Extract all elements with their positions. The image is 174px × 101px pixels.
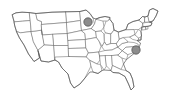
state-washington: [13, 12, 31, 22]
marker-mid-atlantic[interactable]: [132, 46, 140, 54]
marker-upper-midwest[interactable]: [84, 18, 92, 26]
state-oklahoma: [69, 48, 89, 57]
state-texas: [55, 57, 91, 89]
state-kansas: [68, 40, 86, 49]
state-florida: [111, 66, 134, 91]
state-wyoming: [42, 23, 68, 36]
state-oregon: [15, 21, 32, 33]
us-map-figure: [0, 0, 174, 101]
united-states-map: [0, 0, 174, 101]
state-colorado: [53, 34, 69, 46]
